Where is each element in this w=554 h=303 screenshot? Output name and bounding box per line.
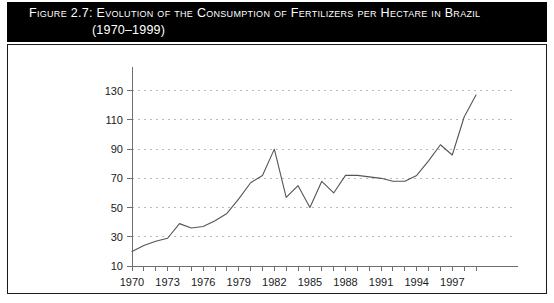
data-series-line	[132, 95, 476, 251]
x-tick-label: 1991	[369, 276, 393, 288]
y-tick-label: 30	[111, 231, 123, 243]
x-axis-tick-labels: 1970197319761979198219851988199119941997	[120, 276, 465, 288]
y-tick-label: 10	[111, 260, 123, 272]
figure-title-banner: Figure 2.7: Evolution of the Consumption…	[7, 2, 547, 42]
figure-title-line-2: (1970–1999)	[92, 23, 165, 37]
gridlines	[132, 91, 516, 266]
y-tick-label: 70	[111, 172, 123, 184]
x-tick-label: 1982	[262, 276, 286, 288]
figure-container: Figure 2.7: Evolution of the Consumption…	[0, 0, 554, 303]
x-axis	[132, 266, 518, 271]
figure-title-line-1: Figure 2.7: Evolution of the Consumption…	[29, 6, 480, 20]
x-tick-label: 1979	[227, 276, 251, 288]
x-tick-label: 1988	[333, 276, 357, 288]
x-tick-label: 1997	[440, 276, 464, 288]
line-chart: 1030507090110130 19701973197619791982198…	[8, 45, 546, 293]
y-axis-tick-labels: 1030507090110130	[105, 85, 123, 272]
y-tick-label: 50	[111, 202, 123, 214]
x-tick-label: 1994	[404, 276, 428, 288]
x-tick-label: 1970	[120, 276, 144, 288]
y-axis	[127, 67, 132, 266]
chart-frame: 1030507090110130 19701973197619791982198…	[7, 44, 547, 294]
x-tick-label: 1973	[155, 276, 179, 288]
y-tick-label: 90	[111, 143, 123, 155]
x-tick-label: 1985	[298, 276, 322, 288]
y-tick-label: 110	[105, 114, 123, 126]
y-tick-label: 130	[105, 85, 123, 97]
x-tick-label: 1976	[191, 276, 215, 288]
